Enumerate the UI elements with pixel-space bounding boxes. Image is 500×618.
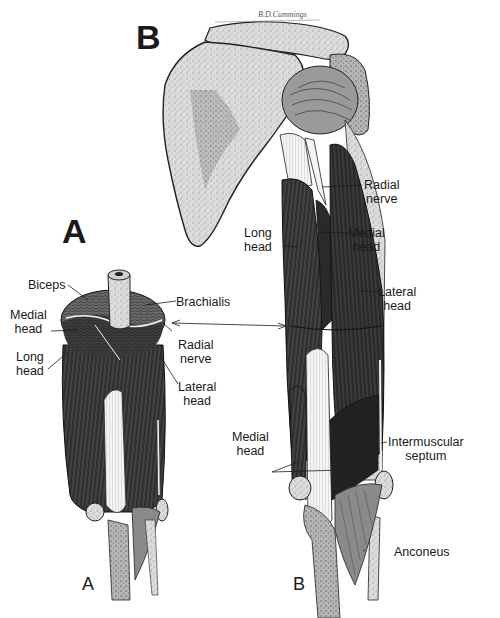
label-biceps: Biceps	[28, 278, 66, 292]
label-brachialis: Brachialis	[176, 295, 230, 309]
label-anconeus: Anconeus	[394, 545, 450, 559]
panel-b-caption-letter: B	[293, 574, 305, 595]
label-medial-head-b-distal: Medial head	[232, 430, 269, 458]
artist-signature: B.D.Cummings	[258, 10, 307, 19]
label-medial-head-a: Medial head	[10, 308, 47, 336]
label-medial-head-b: Medial head	[348, 226, 385, 254]
panel-b-title: B	[136, 18, 161, 57]
panel-a-title: A	[62, 212, 87, 251]
label-intermuscular-septum: Intermuscular septum	[388, 435, 464, 463]
label-lateral-head-a: Lateral head	[178, 380, 216, 408]
panel-b-illustration	[163, 22, 393, 618]
label-lateral-head-b: Lateral head	[378, 285, 416, 313]
label-long-head-b: Long head	[244, 226, 272, 254]
panel-a-illustration	[61, 270, 168, 600]
panel-a-caption-letter: A	[82, 574, 94, 595]
label-radial-nerve-a: Radial nerve	[178, 338, 213, 366]
anatomy-illustration	[0, 0, 500, 618]
label-radial-nerve-b: Radial nerve	[364, 178, 399, 206]
label-long-head-a: Long head	[16, 350, 44, 378]
